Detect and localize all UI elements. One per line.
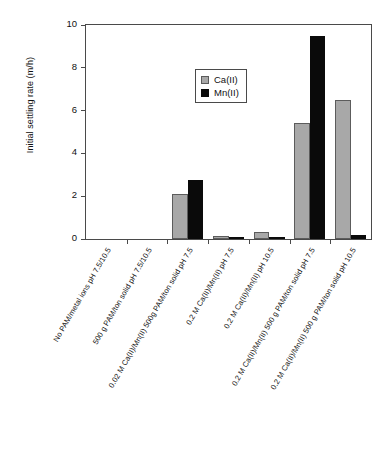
legend-entry-ca: Ca(II) xyxy=(201,73,239,86)
x-axis-label-text: 0.2 M Ca(II)/Mn(II) 500 g PAM/ton solid … xyxy=(268,246,357,391)
x-axis-label-text: 0.2 M Ca(II)/Mn(II) pH 7.5 xyxy=(184,246,236,327)
x-axis-tick xyxy=(330,239,331,244)
bar-caii-6 xyxy=(335,100,351,239)
x-axis-tick xyxy=(290,239,291,244)
plot-area: 0246810 Ca(II) Mn(II) xyxy=(85,24,372,240)
legend-label-mn: Mn(II) xyxy=(214,87,239,98)
bar-mnii-3 xyxy=(229,237,245,239)
x-axis-label-text: 0.02 M Ca(II)/Mn(II) 500g PAM/ton solid … xyxy=(107,246,195,389)
legend-entry-mn: Mn(II) xyxy=(201,86,239,99)
y-tick-label: 10 xyxy=(17,18,77,29)
chart-legend: Ca(II) Mn(II) xyxy=(195,69,247,103)
y-tick-label: 8 xyxy=(17,61,77,72)
legend-label-ca: Ca(II) xyxy=(214,74,238,85)
x-axis-label-text: No PAM/metal ions pH 7.5/10.5 xyxy=(52,246,113,343)
bar-mnii-2 xyxy=(188,180,204,239)
y-tick-label: 0 xyxy=(17,232,77,243)
y-tick-label: 6 xyxy=(17,104,77,115)
y-tick-label: 2 xyxy=(17,189,77,200)
y-tick-mark xyxy=(81,239,86,240)
bar-mnii-5 xyxy=(310,36,326,239)
bar-caii-2 xyxy=(172,194,188,239)
y-tick-mark xyxy=(81,110,86,111)
x-axis-label-text: 0.2 M Ca(II)/Mn(II) pH 10.5 xyxy=(222,246,276,330)
y-tick-mark xyxy=(81,153,86,154)
x-axis-tick xyxy=(127,239,128,244)
bar-caii-4 xyxy=(254,232,270,239)
y-tick-mark xyxy=(81,25,86,26)
bar-mnii-6 xyxy=(351,235,367,239)
bar-mnii-4 xyxy=(269,237,285,239)
bar-caii-3 xyxy=(213,236,229,239)
black-square-icon xyxy=(201,89,209,97)
bar-caii-5 xyxy=(294,123,310,239)
x-axis-tick xyxy=(208,239,209,244)
x-axis-tick xyxy=(167,239,168,244)
y-tick-mark xyxy=(81,67,86,68)
gray-square-icon xyxy=(201,76,209,84)
x-axis-tick xyxy=(249,239,250,244)
bar-chart-figure: Initial settling rate (m/h) 0246810 Ca(I… xyxy=(0,0,390,473)
x-axis-label-text: 0.2 M Ca(II)/Mn(II) 500 g PAM/ton solid … xyxy=(230,246,317,388)
y-tick-mark xyxy=(81,196,86,197)
y-tick-label: 4 xyxy=(17,146,77,157)
x-axis-label-text: 500 g PAM/ton solid pH 7.5/10.5 xyxy=(91,246,154,346)
